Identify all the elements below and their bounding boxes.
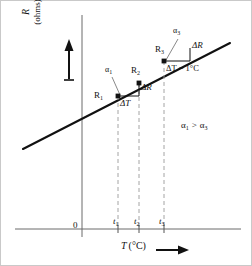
figure-container: R (ohms) T(°C) 0 t1 t2 t3 R1 R2 R3 α1 α3…: [0, 0, 252, 266]
alpha3-label: α3: [173, 27, 180, 35]
t-axis-arrow-icon: [156, 246, 189, 255]
point-label-r3: R3: [155, 45, 164, 54]
delta-t-label-r1: ΔT: [120, 99, 130, 108]
x-axis-label: T(°C): [121, 241, 146, 251]
y-axis-label: R (ohms): [20, 0, 42, 42]
alpha1-label: α1: [105, 66, 112, 74]
y-axis-label-unit: (ohms): [32, 0, 42, 25]
alpha-comparison-label: α1>α3: [181, 121, 208, 130]
leader-alpha1: [112, 77, 120, 95]
step-triangle-r3: [164, 48, 190, 61]
tick-label-t2: t2: [134, 217, 140, 226]
r-axis-arrow-icon: [64, 39, 74, 80]
x-axis-label-unit: (°C): [129, 240, 146, 251]
leader-alpha3: [166, 39, 178, 60]
tick-label-t3: t3: [159, 217, 165, 226]
origin-label: 0: [73, 221, 78, 230]
point-label-r2: R2: [131, 66, 140, 75]
tick-label-t1: t1: [113, 217, 119, 226]
point-label-r1: R1: [94, 91, 103, 100]
delta-t-equals-label: ΔT = 1°C: [166, 64, 199, 73]
delta-r-label-r1: ΔR: [141, 83, 152, 92]
y-axis-label-symbol: R: [20, 9, 31, 15]
x-axis-label-symbol: T: [121, 240, 127, 251]
delta-r-label-r3: ΔR: [192, 41, 203, 50]
